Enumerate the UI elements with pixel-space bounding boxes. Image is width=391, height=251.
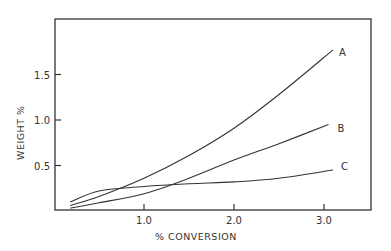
y-tick-label: 1.5 bbox=[34, 70, 50, 81]
x-axis-title: % CONVERSION bbox=[155, 231, 237, 242]
x-tick-label: 2.0 bbox=[226, 215, 242, 226]
series-label-a: A bbox=[339, 47, 346, 58]
series-line-c bbox=[70, 170, 333, 202]
series-line-a bbox=[70, 50, 333, 206]
series-line-b bbox=[70, 125, 328, 209]
x-tick-label: 3.0 bbox=[316, 215, 332, 226]
series-lines: ABC bbox=[70, 47, 348, 208]
plot-frame bbox=[55, 19, 371, 210]
y-axis-title: WEIGHT % bbox=[15, 105, 26, 160]
y-tick-label: 0.5 bbox=[34, 161, 50, 172]
y-tick-label: 1.0 bbox=[34, 115, 50, 126]
x-tick-label: 1.0 bbox=[136, 215, 152, 226]
series-label-c: C bbox=[341, 161, 348, 172]
series-label-b: B bbox=[338, 123, 345, 134]
chart: 1.02.03.00.51.01.5 ABC % CONVERSION WEIG… bbox=[0, 0, 391, 251]
